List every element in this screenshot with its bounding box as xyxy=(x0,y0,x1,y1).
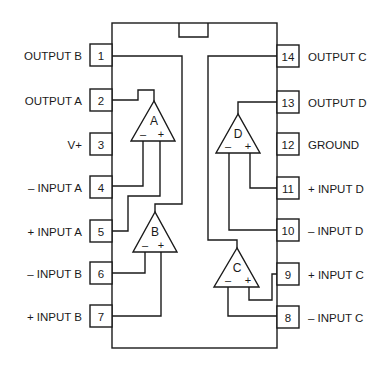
pin-11-number: 11 xyxy=(282,183,294,195)
pin-12: 12 GROUND xyxy=(277,133,359,155)
op-amp-a: A – + xyxy=(131,101,175,141)
pin-12-number: 12 xyxy=(282,139,295,151)
pin-5-label: + INPUT A xyxy=(28,226,83,238)
pin-12-label: GROUND xyxy=(308,139,359,151)
pin-3-number: 3 xyxy=(98,139,104,151)
pin-11: 11 + INPUT D xyxy=(277,177,364,199)
pin-7-label: + INPUT B xyxy=(27,311,82,323)
op-amp-b: B – + xyxy=(133,212,177,252)
pin-4-number: 4 xyxy=(98,182,105,194)
op-amp-b-minus: – xyxy=(142,239,149,251)
pin-13-number: 13 xyxy=(282,97,295,109)
op-amp-a-label: A xyxy=(150,114,158,128)
left-pins: 1 OUTPUT B 2 OUTPUT A 3 V+ 4 – INPUT A 5… xyxy=(24,44,112,327)
pin-6-label: – INPUT B xyxy=(27,268,82,280)
op-amp-a-minus: – xyxy=(140,128,147,140)
pin-8-label: – INPUT C xyxy=(308,312,363,324)
pin-11-label: + INPUT D xyxy=(308,183,364,195)
pin-1-number: 1 xyxy=(98,50,104,62)
pin-5: 5 + INPUT A xyxy=(28,220,112,242)
right-pins: 14 OUTPUT C 13 OUTPUT D 12 GROUND 11 + I… xyxy=(277,45,367,328)
op-amp-pinout-diagram: A – + B – + D – + C – + 1 OUTPUT B 2 OUT… xyxy=(0,0,389,367)
pin-9-label: + INPUT C xyxy=(308,269,364,281)
pin-4-label: – INPUT A xyxy=(28,182,82,194)
pin-4: 4 – INPUT A xyxy=(28,176,112,198)
op-amp-c-minus: – xyxy=(225,274,232,286)
pin-10-number: 10 xyxy=(282,225,295,237)
pin-14: 14 OUTPUT C xyxy=(277,45,367,67)
op-amp-d-minus: – xyxy=(225,140,232,152)
pin-2-number: 2 xyxy=(98,95,104,107)
pin-13: 13 OUTPUT D xyxy=(277,91,367,113)
pin-7: 7 + INPUT B xyxy=(27,305,112,327)
pin-3: 3 V+ xyxy=(68,133,112,155)
chip-notch xyxy=(179,23,208,37)
op-amp-b-plus: + xyxy=(158,239,164,251)
pin-10-label: – INPUT D xyxy=(308,225,363,237)
pin-8: 8 – INPUT C xyxy=(277,306,363,328)
pin-10: 10 – INPUT D xyxy=(277,219,363,241)
pin-3-label: V+ xyxy=(68,139,83,151)
pin-5-number: 5 xyxy=(98,226,104,238)
op-amp-d-plus: + xyxy=(245,140,251,152)
pin-6: 6 – INPUT B xyxy=(27,262,112,284)
pin-13-label: OUTPUT D xyxy=(308,97,367,109)
pin-1: 1 OUTPUT B xyxy=(24,44,112,66)
op-amp-d-label: D xyxy=(234,127,243,141)
op-amp-c: C – + xyxy=(214,248,259,287)
pin-14-number: 14 xyxy=(282,51,295,63)
pin-7-number: 7 xyxy=(98,311,104,323)
pin-2-label: OUTPUT A xyxy=(25,95,83,107)
op-amp-c-plus: + xyxy=(245,274,251,286)
op-amp-c-label: C xyxy=(233,261,242,275)
op-amp-a-plus: + xyxy=(158,128,164,140)
pin-9-number: 9 xyxy=(285,269,291,281)
pin-9: 9 + INPUT C xyxy=(277,263,364,285)
pin-6-number: 6 xyxy=(98,268,104,280)
pin-1-label: OUTPUT B xyxy=(24,50,82,62)
pin-8-number: 8 xyxy=(285,312,291,324)
op-amp-b-label: B xyxy=(151,225,159,239)
pin-2: 2 OUTPUT A xyxy=(25,89,112,111)
op-amp-d: D – + xyxy=(216,114,260,153)
pin-14-label: OUTPUT C xyxy=(308,51,367,63)
